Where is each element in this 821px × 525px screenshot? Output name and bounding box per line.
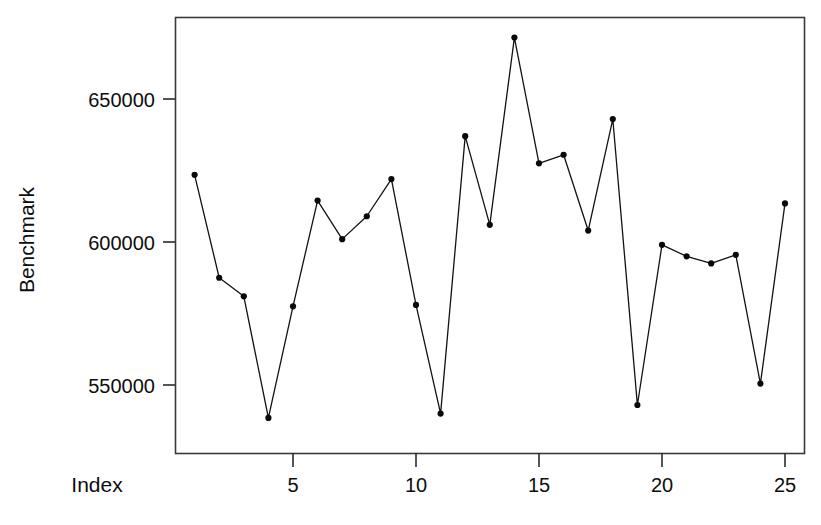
x-tick-label-25: 25 [774, 474, 796, 496]
data-point [364, 213, 370, 219]
chart-canvas: 650000 600000 550000 Benchmark 5 10 15 2… [0, 0, 821, 525]
data-point [216, 275, 222, 281]
data-point [339, 236, 345, 242]
data-point [610, 116, 616, 122]
data-point [684, 253, 690, 259]
x-tick-label-5: 5 [287, 474, 298, 496]
data-point [536, 160, 542, 166]
chart-background [0, 0, 821, 525]
data-point [265, 415, 271, 421]
data-point [511, 34, 517, 40]
y-tick-label-650000: 650000 [88, 89, 155, 111]
x-tick-label-20: 20 [651, 474, 673, 496]
data-point [708, 260, 714, 266]
data-point [290, 303, 296, 309]
data-point [241, 293, 247, 299]
x-axis-title: Index [71, 473, 123, 496]
data-point [659, 242, 665, 248]
y-axis-title: Benchmark [15, 186, 38, 293]
x-tick-label-15: 15 [528, 474, 550, 496]
data-point [782, 200, 788, 206]
data-point [487, 222, 493, 228]
data-point [413, 302, 419, 308]
data-point [561, 152, 567, 158]
data-point [315, 197, 321, 203]
data-point [733, 252, 739, 258]
data-point [462, 133, 468, 139]
y-tick-label-600000: 600000 [88, 232, 155, 254]
y-tick-label-550000: 550000 [88, 375, 155, 397]
benchmark-index-line-chart: 650000 600000 550000 Benchmark 5 10 15 2… [0, 0, 821, 525]
data-point [757, 380, 763, 386]
data-point [634, 402, 640, 408]
data-point [388, 176, 394, 182]
x-tick-label-10: 10 [405, 474, 427, 496]
data-point [192, 172, 198, 178]
data-point [438, 411, 444, 417]
data-point [585, 227, 591, 233]
